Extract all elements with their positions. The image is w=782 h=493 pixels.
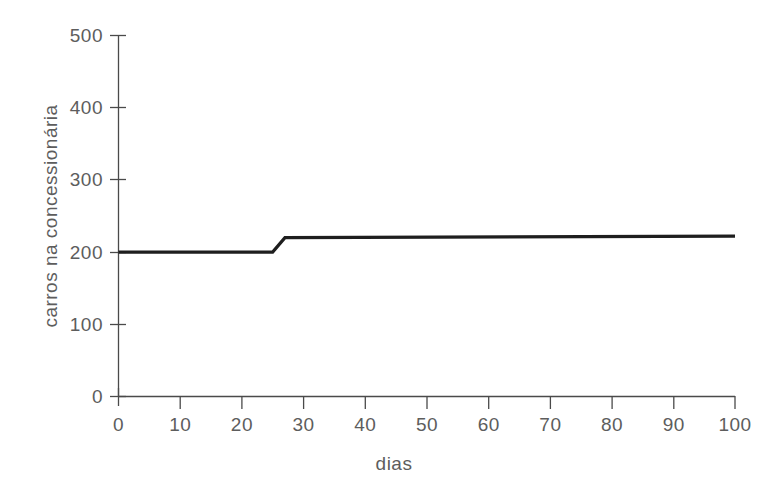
x-tick-label-40: 40 xyxy=(354,414,376,435)
x-tick-label-90: 90 xyxy=(663,414,685,435)
x-tick-label-50: 50 xyxy=(416,414,438,435)
y-axis-title: carros na concessionária xyxy=(40,104,61,327)
x-tick-label-100: 100 xyxy=(718,414,751,435)
y-tick-label-400: 400 xyxy=(70,97,103,118)
x-tick-label-20: 20 xyxy=(231,414,253,435)
x-tick-label-0: 0 xyxy=(113,414,124,435)
data-series-line xyxy=(119,236,736,252)
line-chart: 500 400 300 200 100 0 0 10 20 30 40 50 6… xyxy=(0,0,782,493)
y-tick-label-0: 0 xyxy=(92,386,103,407)
y-tick-label-200: 200 xyxy=(70,242,103,263)
y-tick-label-100: 100 xyxy=(70,314,103,335)
x-tick-label-70: 70 xyxy=(539,414,561,435)
x-tick-marks xyxy=(119,388,736,409)
y-tick-label-300: 300 xyxy=(70,169,103,190)
x-tick-label-80: 80 xyxy=(601,414,623,435)
x-tick-label-60: 60 xyxy=(478,414,500,435)
x-tick-label-10: 10 xyxy=(169,414,191,435)
x-tick-label-30: 30 xyxy=(293,414,315,435)
chart-page: 500 400 300 200 100 0 0 10 20 30 40 50 6… xyxy=(0,0,782,493)
x-axis-title: dias xyxy=(376,453,413,474)
y-tick-label-500: 500 xyxy=(70,25,103,46)
